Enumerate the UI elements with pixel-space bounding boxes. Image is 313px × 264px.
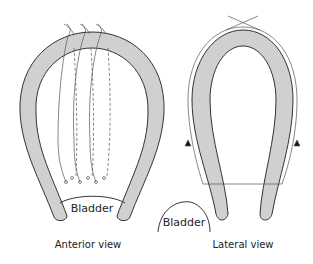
diagram-canvas: Bladder Anterior view Bladder Lateral vi… <box>0 0 313 264</box>
anterior-bladder-label: Bladder <box>71 202 114 215</box>
lateral-bladder-label: Bladder <box>163 216 206 229</box>
lateral-band <box>192 30 293 220</box>
lateral-caption: Lateral view <box>213 239 274 250</box>
anterior-caption: Anterior view <box>55 239 122 250</box>
diagram: Bladder Anterior view Bladder Lateral vi… <box>0 0 313 264</box>
